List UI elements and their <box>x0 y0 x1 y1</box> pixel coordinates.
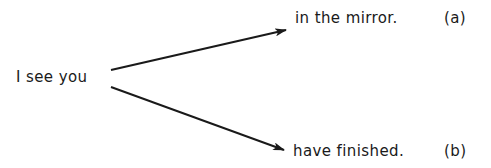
source-phrase: I see you <box>16 70 87 85</box>
arrow-to-branch-b <box>111 87 284 150</box>
arrow-to-branch-a <box>111 30 286 70</box>
branch-b-phrase: have finished. <box>293 144 404 159</box>
branch-a-tag: (a) <box>444 11 466 26</box>
branch-b-tag: (b) <box>444 144 466 159</box>
branch-a-phrase: in the mirror. <box>295 11 398 26</box>
